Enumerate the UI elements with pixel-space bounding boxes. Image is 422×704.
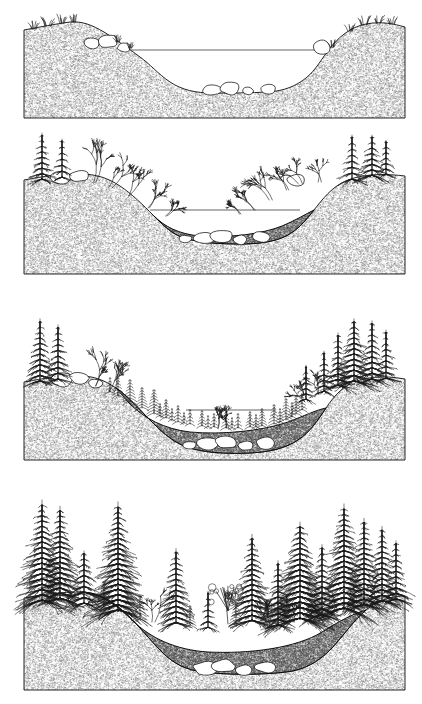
succession-figure: Riparian vegetation succession and chann… [0, 0, 422, 704]
panel-4 [0, 472, 422, 704]
panel-3 [0, 290, 422, 470]
panel-1 [0, 0, 422, 130]
panel-2 [0, 128, 422, 286]
